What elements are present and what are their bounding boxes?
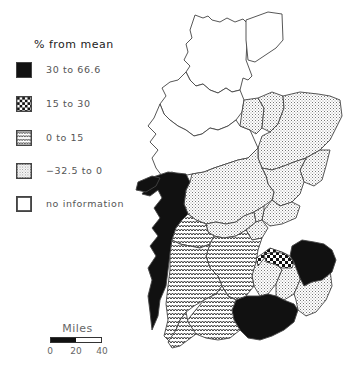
legend-item-0-to-15: 0 to 15	[16, 130, 156, 148]
legend-label: no information	[46, 198, 124, 209]
scale-tick-20: 20	[70, 346, 81, 356]
legend-label: 15 to 30	[46, 98, 91, 109]
scale-bar: Miles 0 20 40	[40, 320, 120, 370]
legend-label: 30 to 66.6	[46, 64, 101, 75]
legend-label: −32.5 to 0	[46, 165, 103, 176]
region-dumfries	[232, 294, 298, 340]
scale-tick-0: 0	[47, 346, 53, 356]
legend: % from mean 30 to 66.6 15 to 30 0 to 15 …	[0, 0, 150, 260]
swatch-zigzag-icon	[16, 130, 32, 146]
scale-tick-40: 40	[96, 346, 107, 356]
legend-item-no-information: no information	[16, 196, 156, 214]
legend-item-15-to-30: 15 to 30	[16, 96, 156, 114]
swatch-checkerboard-icon	[16, 96, 32, 112]
scale-bar-graphic	[50, 337, 102, 343]
legend-title: % from mean	[34, 38, 114, 51]
swatch-stipple-icon	[16, 163, 32, 179]
region-sutherland	[184, 15, 252, 93]
swatch-solid-black-icon	[16, 62, 32, 78]
region-caithness	[246, 12, 283, 62]
legend-item-neg-32-5-to-0: −32.5 to 0	[16, 163, 156, 181]
legend-label: 0 to 15	[46, 132, 84, 143]
scale-title: Miles	[40, 322, 115, 335]
legend-item-30-to-66-6: 30 to 66.6	[16, 62, 156, 80]
swatch-blank-icon	[16, 196, 32, 212]
scale-bar-fill	[51, 338, 76, 342]
